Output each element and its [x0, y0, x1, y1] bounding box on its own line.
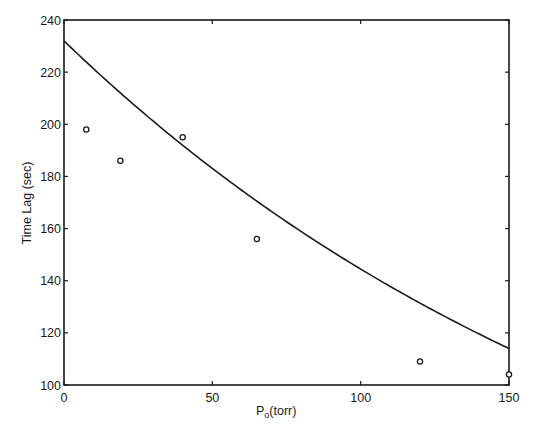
y-tick-label: 120	[40, 326, 61, 340]
data-point	[417, 359, 422, 364]
chart: 100120140160180200220240 050100150 Time …	[0, 0, 535, 437]
x-axis-label: Po(torr)	[256, 404, 296, 420]
x-tick-label: 150	[499, 391, 520, 405]
plot-frame	[64, 20, 509, 385]
data-point	[506, 372, 511, 377]
fit-curve	[64, 41, 509, 349]
plot-border	[64, 20, 509, 385]
x-axis-ticks: 050100150	[61, 20, 520, 405]
y-tick-label: 220	[40, 66, 61, 80]
x-tick-label: 0	[61, 391, 68, 405]
data-point	[84, 127, 89, 132]
data-point	[118, 158, 123, 163]
y-tick-label: 240	[40, 14, 61, 28]
y-tick-label: 140	[40, 274, 61, 288]
y-tick-label: 160	[40, 222, 61, 236]
y-tick-label: 100	[40, 379, 61, 393]
y-tick-label: 200	[40, 118, 61, 132]
data-markers	[84, 127, 512, 377]
data-point	[254, 236, 259, 241]
y-axis-label: Time Lag (sec)	[20, 162, 34, 245]
x-tick-label: 50	[205, 391, 219, 405]
y-tick-label: 180	[40, 170, 61, 184]
x-tick-label: 100	[350, 391, 371, 405]
y-axis-ticks: 100120140160180200220240	[40, 14, 509, 393]
data-point	[180, 135, 185, 140]
